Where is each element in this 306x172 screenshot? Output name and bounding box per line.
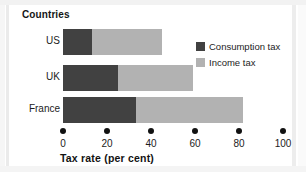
bar-row-uk	[63, 65, 193, 91]
x-axis-tick-dot-40	[148, 128, 154, 134]
bar-row-us	[63, 29, 162, 55]
x-axis-tick-dot-60	[192, 128, 198, 134]
legend-label-consumption-tax: Consumption tax	[209, 41, 280, 52]
bar-segment-france-income-tax	[136, 97, 244, 123]
legend-label-income-tax: Income tax	[209, 57, 255, 68]
x-axis-tick-label-60: 60	[175, 138, 215, 149]
bar-segment-uk-consumption-tax	[63, 65, 118, 91]
x-axis-tick-label-80: 80	[219, 138, 259, 149]
x-axis-tick-dot-0	[60, 128, 66, 134]
legend-swatch-income-tax	[196, 58, 205, 67]
x-axis-title: Tax rate (per cent)	[60, 152, 154, 164]
x-axis-tick-label-40: 40	[131, 138, 171, 149]
x-axis-tick-label-0: 0	[43, 138, 83, 149]
x-axis-tick-label-100: 100	[263, 138, 303, 149]
bar-segment-us-consumption-tax	[63, 29, 92, 55]
bar-segment-us-income-tax	[92, 29, 162, 55]
x-axis-tick-dot-80	[236, 128, 242, 134]
x-axis-tick-label-20: 20	[87, 138, 127, 149]
bar-segment-uk-income-tax	[118, 65, 193, 91]
chart-screenshot: Countries US UK France 0 20 40 60	[0, 0, 306, 172]
x-axis-tick-dot-20	[104, 128, 110, 134]
bar-row-france	[63, 97, 243, 123]
x-axis-tick-dot-100	[280, 128, 286, 134]
bar-segment-france-consumption-tax	[63, 97, 136, 123]
legend-swatch-consumption-tax	[196, 42, 205, 51]
